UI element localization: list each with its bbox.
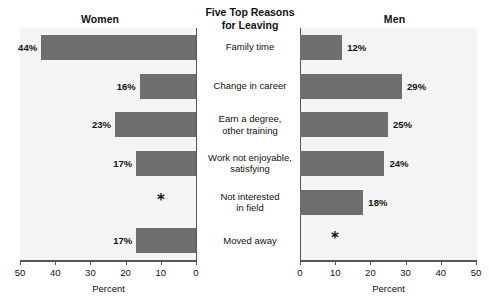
x-tick-women-50 [20,260,21,265]
x-axis-title-women: Percent [20,283,197,294]
category-label-0: Family time [200,41,300,53]
bar-men-1 [300,74,402,99]
category-label-3: Work not enjoyable,satisfying [200,152,300,175]
category-label-4-line1: Not interested [220,191,279,202]
bar-label-men-1: 29% [407,74,439,99]
category-label-5-line1: Moved away [223,235,276,246]
bar-label-women-5: 17% [102,228,132,253]
x-tick-men-50 [476,260,477,265]
x-axis-men [300,260,477,262]
x-tick-label-women-30: 30 [78,267,102,278]
bar-label-women-1: 16% [106,74,136,99]
category-label-3-line2: satisfying [230,163,270,174]
category-label-1: Change in career [200,80,300,92]
bar-women-5 [136,228,196,253]
bar-men-2 [300,112,388,137]
x-tick-label-women-20: 20 [114,267,138,278]
x-tick-men-20 [370,260,371,265]
category-label-4-line2: in field [236,202,263,213]
x-tick-label-men-0: 0 [288,267,312,278]
x-tick-women-30 [90,260,91,265]
suppressed-value-marker-women-4: * [154,188,168,213]
x-tick-label-women-40: 40 [43,267,67,278]
x-tick-label-men-40: 40 [429,267,453,278]
bar-women-1 [140,74,196,99]
category-label-0-line1: Family time [226,41,275,52]
category-label-2: Earn a degree,other training [200,113,300,136]
x-tick-women-0 [196,260,197,265]
x-tick-women-20 [126,260,127,265]
bar-label-women-0: 44% [7,35,37,60]
plot-area-women [20,28,197,260]
x-tick-label-women-0: 0 [184,267,208,278]
x-tick-label-women-50: 50 [8,267,32,278]
x-tick-label-men-50: 50 [464,267,488,278]
bar-men-0 [300,35,342,60]
category-label-2-line2: other training [222,125,277,136]
bar-men-3 [300,151,384,176]
panel-categories: Five Top Reasons for Leaving Family time… [200,0,300,301]
category-label-2-line1: Earn a degree, [219,113,282,124]
bar-label-men-2: 25% [393,112,425,137]
x-tick-men-0 [300,260,301,265]
bar-label-men-4: 18% [368,190,400,215]
suppressed-value-marker-men-5: * [328,226,342,251]
bar-women-3 [136,151,196,176]
x-axis-title-men: Percent [300,283,477,294]
x-tick-label-men-20: 20 [358,267,382,278]
category-label-5: Moved away [200,235,300,247]
bar-label-men-0: 12% [347,35,379,60]
panel-title-women: Women [0,13,200,25]
chart-title: Five Top Reasons for Leaving [200,6,300,31]
x-tick-label-men-10: 10 [323,267,347,278]
chart-container: Women Percent Five Top Reasons for Leavi… [0,0,489,301]
bar-women-2 [115,112,196,137]
x-tick-label-men-30: 30 [394,267,418,278]
bar-men-4 [300,190,363,215]
bar-women-0 [41,35,196,60]
bar-label-women-3: 17% [102,151,132,176]
plot-area-men [300,28,477,260]
x-tick-men-40 [441,260,442,265]
category-label-1-line1: Change in career [214,80,287,91]
x-tick-men-10 [335,260,336,265]
chart-title-line1: Five Top Reasons [205,6,294,18]
x-axis-women [20,260,197,262]
x-tick-women-40 [55,260,56,265]
x-tick-women-10 [161,260,162,265]
category-label-3-line1: Work not enjoyable, [208,152,292,163]
x-tick-label-women-10: 10 [149,267,173,278]
bar-label-women-2: 23% [81,112,111,137]
x-tick-men-30 [406,260,407,265]
chart-title-line2: for Leaving [222,19,279,31]
bar-label-men-3: 24% [389,151,421,176]
category-label-4: Not interestedin field [200,191,300,214]
panel-title-men: Men [300,13,489,25]
